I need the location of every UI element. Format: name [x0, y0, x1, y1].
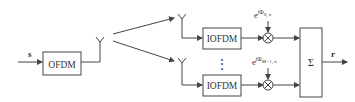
- phase-label-bottom: ejΦM−1, n: [252, 56, 277, 67]
- rx-feed-line-top: [182, 19, 202, 38]
- channel-arrow-top: [113, 18, 174, 34]
- ellipsis: ⋮: [216, 57, 228, 71]
- sum-symbol: Σ: [308, 57, 314, 68]
- rx-antenna-icon-bottom: [178, 58, 186, 63]
- rx-antenna-icon-top: [178, 14, 186, 19]
- channel-arrow-bottom: [113, 41, 174, 61]
- tx-feed-line: [81, 41, 100, 62]
- output-label: r: [331, 49, 335, 59]
- tx-antenna-icon: [96, 37, 104, 42]
- iofdm-label-top: IOFDM: [207, 34, 238, 44]
- multiplier-icon-top: [263, 33, 273, 43]
- diagram-canvas: s OFDM IOFDM ⋮ IOFDM ejΦ0, n ejΦM−1, n: [0, 0, 355, 102]
- phase-label-top: ejΦ0, n: [254, 9, 272, 20]
- input-label: s: [28, 49, 32, 59]
- rx-feed-line-bottom: [182, 63, 202, 85]
- ofdm-label: OFDM: [48, 60, 76, 70]
- iofdm-label-bottom: IOFDM: [207, 81, 238, 91]
- multiplier-icon-bottom: [263, 80, 273, 90]
